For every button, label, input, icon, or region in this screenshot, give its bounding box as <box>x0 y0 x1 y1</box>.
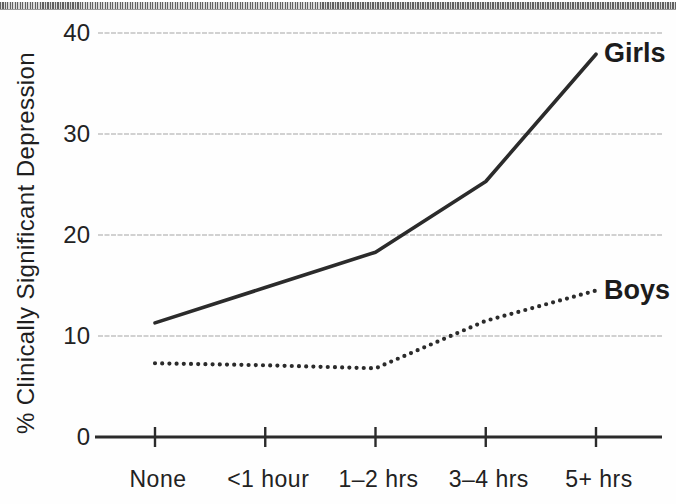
x-axis <box>95 427 662 447</box>
series-lines <box>155 54 596 368</box>
series-line-girls <box>155 54 596 323</box>
series-label-boys: Boys <box>604 275 670 305</box>
series-label-girls: Girls <box>604 38 666 68</box>
x-category-label: 5+ hrs <box>565 466 633 492</box>
y-tick-labels: 010203040 <box>63 19 90 450</box>
y-tick-label: 20 <box>63 221 90 248</box>
depression-by-screen-time-line-chart: 010203040 None<1 hour1–2 hrs3–4 hrs5+ hr… <box>0 0 676 504</box>
y-axis-title: % Clinically Significant Depression <box>12 52 39 434</box>
y-tick-label: 10 <box>63 322 90 349</box>
x-category-label: 1–2 hrs <box>338 466 418 492</box>
x-category-labels: None<1 hour1–2 hrs3–4 hrs5+ hrs <box>130 466 633 492</box>
y-tick-label: 30 <box>63 120 90 147</box>
y-tick-label: 0 <box>77 423 90 450</box>
gridlines <box>98 33 662 336</box>
chart-figure: 010203040 None<1 hour1–2 hrs3–4 hrs5+ hr… <box>0 0 676 504</box>
series-labels: GirlsBoys <box>604 38 670 304</box>
x-category-label: None <box>130 466 187 492</box>
x-category-label: <1 hour <box>227 466 309 492</box>
y-tick-label: 40 <box>63 19 90 46</box>
x-category-label: 3–4 hrs <box>449 466 529 492</box>
